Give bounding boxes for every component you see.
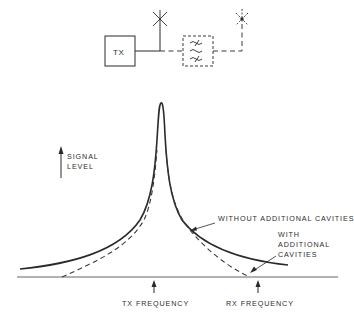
block-diagram: TX [105, 9, 248, 66]
y-axis-label-line1: SIGNAL [67, 152, 99, 161]
filter-icon [190, 40, 202, 62]
label-with-line2: ADDITIONAL [278, 240, 330, 249]
curve-without-cavities [20, 103, 288, 269]
transmitter-label: TX [113, 48, 124, 57]
feed-line-dashed-to-antenna [213, 22, 242, 51]
label-with-line1: WITH [278, 230, 300, 239]
y-axis-label-line2: LEVEL [67, 162, 94, 171]
label-without-cavities: WITHOUT ADDITIONAL CAVITIES [218, 214, 354, 223]
response-plot: SIGNAL LEVEL WITHOUT ADDITIONAL CAVITIES… [17, 103, 354, 308]
tx-frequency-arrow-icon [152, 280, 157, 293]
feed-line-solid [135, 20, 160, 51]
leader-with [250, 256, 276, 273]
antenna-dashed-icon [236, 9, 248, 25]
cavity-filter-diagram: TX [0, 0, 354, 319]
cavity-filter-box [183, 36, 213, 66]
tx-frequency-label: TX FREQUENCY [122, 299, 189, 308]
leader-without [190, 223, 215, 231]
label-with-line3: CAVITIES [278, 250, 317, 259]
signal-level-arrow-icon [59, 146, 64, 178]
rx-frequency-label: RX FREQUENCY [226, 299, 294, 308]
rx-frequency-arrow-icon [256, 280, 261, 293]
